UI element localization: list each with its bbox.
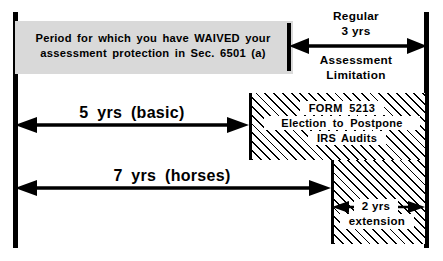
form-5213-subtitle: Election to Postpone bbox=[264, 116, 420, 130]
regular-3yrs-arrow bbox=[289, 38, 427, 54]
extension-years-label: 2 yrs bbox=[354, 199, 398, 214]
form-5213-audits-label: IRS Audits bbox=[308, 131, 386, 145]
basic-span-arrow bbox=[15, 117, 249, 133]
form-5213-title: FORM 5213 bbox=[300, 101, 384, 115]
extension-word-label: extension bbox=[340, 214, 414, 229]
regular-limitation-bottom-label: Assessment Limitation bbox=[297, 53, 415, 83]
waiver-period-label: Period for which you have WAIVED your as… bbox=[22, 31, 284, 61]
horses-span-arrow bbox=[15, 180, 331, 196]
regular-limitation-top-label: Regular 3 yrs bbox=[300, 9, 412, 39]
diagram-canvas: Period for which you have WAIVED your as… bbox=[0, 0, 443, 261]
